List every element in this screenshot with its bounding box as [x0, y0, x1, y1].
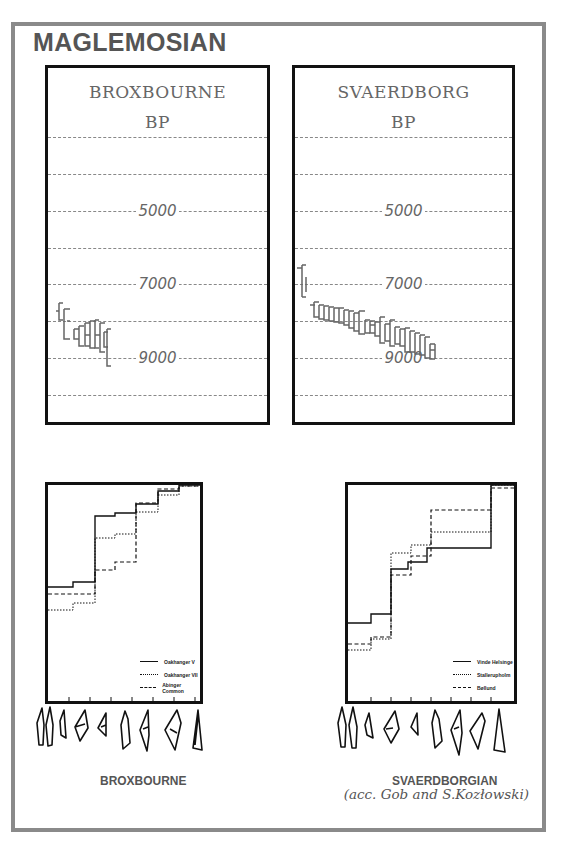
microlith-icon [193, 710, 202, 750]
microlith-icon [121, 711, 130, 749]
microlith-icon [470, 713, 485, 749]
date-range-bars [45, 65, 270, 425]
legend-item: Vinde Helsinge [453, 655, 513, 668]
microlith-icon [75, 710, 88, 741]
source-credit: (acc. Gob and S.Kozłowski) [344, 786, 529, 802]
microlith-icon [365, 713, 373, 738]
legend-item: Oakhanger VII [140, 668, 200, 681]
svaerdborg-date-panel: SVAERDBORG BP 5000 7000 9000 [292, 65, 515, 425]
broxbourne-label: BROXBOURNE [100, 773, 186, 788]
microlith-icon [432, 710, 442, 748]
figure-title: MAGLEMOSIAN [33, 28, 227, 57]
svaerdborgian-cumulative-chart: Vinde Helsinge Stallerupholm Bøllund [345, 482, 517, 704]
microlith-icon [46, 707, 53, 746]
legend-item: Stallerupholm [453, 668, 513, 681]
broxbourne-date-panel: BROXBOURNE BP 5000 7000 9000 [45, 65, 270, 425]
chart-legend: Oakhanger V Oakhanger VII Abinger Common [140, 655, 200, 694]
legend-item: Bøllund [453, 681, 513, 694]
svaerdborgian-microlith-types [335, 705, 535, 760]
microlith-icon [165, 710, 181, 750]
legend-item: Abinger Common [140, 681, 200, 694]
microlith-icon [349, 707, 357, 748]
microlith-icon [98, 713, 106, 736]
microlith-icon [338, 707, 346, 747]
microlith-icon [37, 708, 44, 745]
chart-legend: Vinde Helsinge Stallerupholm Bøllund [453, 655, 513, 694]
broxbourne-cumulative-chart: Oakhanger V Oakhanger VII Abinger Common [45, 482, 203, 704]
microlith-icon [451, 710, 462, 755]
date-range-bars [292, 65, 515, 425]
microlith-icon [60, 710, 66, 738]
microlith-icon [494, 709, 505, 752]
microlith-icon [140, 710, 149, 751]
legend-item: Oakhanger V [140, 655, 200, 668]
microlith-icon [384, 711, 399, 743]
broxbourne-microlith-types [35, 705, 235, 760]
microlith-icon [411, 713, 418, 735]
